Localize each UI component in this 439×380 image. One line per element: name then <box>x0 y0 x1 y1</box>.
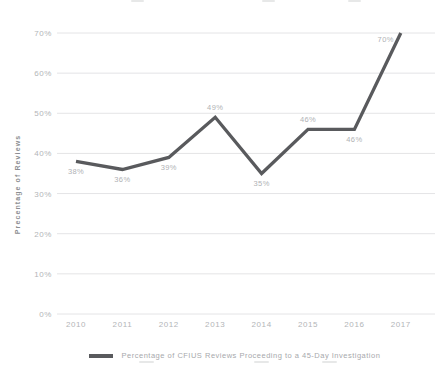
y-tick-label: 30% <box>34 190 52 199</box>
cropped-text-artifact <box>254 361 269 363</box>
x-tick-label: 2015 <box>298 320 318 329</box>
y-tick-label: 40% <box>34 149 52 158</box>
y-tick-label: 0% <box>39 310 52 319</box>
x-tick-label: 2012 <box>159 320 179 329</box>
legend-line-swatch <box>89 354 113 358</box>
data-line <box>76 33 401 174</box>
legend: Percentage of CFIUS Reviews Proceeding t… <box>30 351 439 360</box>
cfius-reviews-line-chart: Precentage of Reviews 0%10%20%30%40%50%6… <box>0 0 439 380</box>
point-label: 46% <box>300 115 316 124</box>
point-label: 36% <box>114 175 130 184</box>
point-label: 35% <box>253 179 269 188</box>
point-label: 70% <box>378 35 394 44</box>
point-label: 38% <box>68 167 84 176</box>
cropped-text-artifact <box>139 361 154 363</box>
y-tick-label: 60% <box>34 69 52 78</box>
x-tick-label: 2014 <box>251 320 271 329</box>
x-tick-label: 2017 <box>391 320 411 329</box>
y-tick-label: 70% <box>34 29 52 38</box>
y-tick-label: 10% <box>34 270 52 279</box>
point-label: 46% <box>346 135 362 144</box>
cropped-text-artifact <box>348 0 361 2</box>
plot-area: 0%10%20%30%40%50%60%70%20102011201220132… <box>0 0 439 345</box>
point-label: 39% <box>161 163 177 172</box>
cropped-text-artifact <box>131 0 144 2</box>
legend-label: Percentage of CFIUS Reviews Proceeding t… <box>122 351 381 360</box>
x-tick-label: 2016 <box>344 320 364 329</box>
y-tick-label: 20% <box>34 230 52 239</box>
y-tick-label: 50% <box>34 109 52 118</box>
x-tick-label: 2011 <box>113 320 133 329</box>
x-tick-label: 2013 <box>205 320 225 329</box>
cropped-text-artifact <box>322 361 337 363</box>
point-label: 49% <box>207 103 223 112</box>
cropped-text-artifact <box>262 0 275 2</box>
x-tick-label: 2010 <box>66 320 86 329</box>
